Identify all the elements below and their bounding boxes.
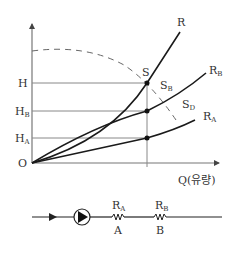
pump-system-curve-diagram: H HB HA O Q(유량) R RB RA S SB SD RA A RB …	[0, 0, 234, 254]
label-ra: RA	[203, 110, 217, 124]
label-sb: SB	[160, 79, 173, 93]
curve-r	[32, 32, 180, 163]
point-sa	[145, 136, 150, 141]
resistor-b-label: RB	[155, 199, 168, 213]
resistor-b-name: B	[156, 224, 164, 237]
resistor-a-label: RA	[112, 199, 126, 213]
flow-arrow-icon	[49, 213, 57, 221]
label-ha: HA	[15, 132, 31, 146]
label-s: S	[142, 66, 150, 79]
label-q-flow: Q(유량)	[178, 174, 216, 187]
label-sd: SD	[182, 98, 196, 112]
curve-ra	[32, 120, 195, 163]
curve-rb	[32, 73, 206, 163]
pump-curve-dashed	[32, 49, 176, 120]
label-rb: RB	[209, 64, 222, 78]
resistor-a-name: A	[113, 224, 123, 237]
label-h: H	[18, 77, 28, 90]
label-r: R	[177, 16, 186, 29]
label-origin: O	[18, 157, 27, 170]
point-s	[145, 81, 150, 86]
resistor-a-icon	[112, 214, 124, 220]
point-sb	[145, 109, 150, 114]
resistor-b-icon	[154, 214, 166, 220]
label-hb: HB	[15, 105, 30, 119]
